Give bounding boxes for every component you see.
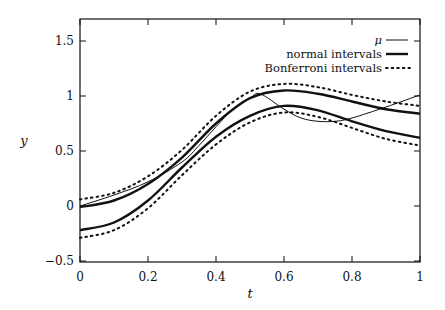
series-line-dotted <box>80 112 420 238</box>
series-line-dotted <box>80 84 420 200</box>
y-tick-label: 1 <box>66 89 74 103</box>
x-tick-labels: 0 0.2 0.4 0.6 0.8 1 <box>76 270 424 284</box>
legend: μ normal intervals Bonferroni intervals <box>265 33 410 75</box>
series-group <box>80 84 420 238</box>
y-axis-label: y <box>19 133 28 148</box>
y-tick-label: 0 <box>66 199 74 213</box>
x-tick-label: 1 <box>416 270 424 284</box>
y-tick-label: 0.5 <box>55 144 74 158</box>
line-chart: −0.5 0 0.5 1 1.5 0 0.2 0.4 0.6 0.8 1 t y… <box>0 0 445 310</box>
x-axis-label: t <box>247 286 253 301</box>
series-line-thin-solid <box>80 93 420 206</box>
y-tick-label: 1.5 <box>55 34 74 48</box>
x-tick-label: 0.8 <box>342 270 361 284</box>
y-tick-label: −0.5 <box>45 254 74 268</box>
x-tick-label: 0.4 <box>206 270 225 284</box>
legend-label-bonferroni: Bonferroni intervals <box>265 61 383 75</box>
series-line-thick-solid <box>80 90 420 207</box>
x-tick-label: 0.6 <box>274 270 293 284</box>
legend-label-normal: normal intervals <box>286 47 382 61</box>
x-tick-label: 0 <box>76 270 84 284</box>
series-line-thick-solid <box>80 106 420 230</box>
x-tick-label: 0.2 <box>138 270 157 284</box>
y-tick-labels: −0.5 0 0.5 1 1.5 <box>45 34 74 268</box>
legend-label-mu: μ <box>375 33 382 47</box>
